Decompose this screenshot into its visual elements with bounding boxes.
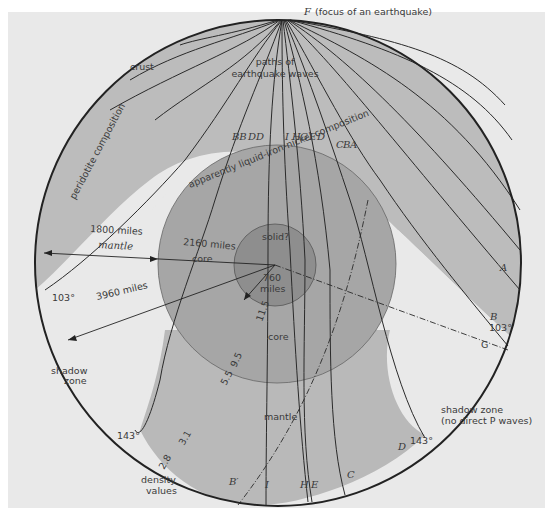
- ray-label-E: E: [308, 131, 317, 142]
- ray-label-BB: BB: [231, 131, 247, 142]
- density-label-1: density: [141, 474, 176, 485]
- shadow-right-2: (no direct P waves): [441, 415, 532, 426]
- paths-label-2: earthquake waves: [231, 68, 318, 79]
- surface-label-C: C: [347, 469, 355, 480]
- angle-143-right: 143°: [410, 435, 433, 446]
- miles-760-a: 760: [263, 272, 281, 283]
- ray-label-G: G: [300, 131, 308, 142]
- surface-label-E: E: [310, 479, 319, 490]
- surface-label-B: B: [489, 311, 497, 322]
- angle-103-left: 103°: [52, 292, 75, 303]
- mantle-bottom-label: mantle: [264, 411, 297, 422]
- surface-label-G: G: [481, 339, 488, 350]
- density-label-2: values: [146, 485, 177, 496]
- miles-760-b: miles: [260, 283, 285, 294]
- surface-label-D: D: [397, 441, 406, 452]
- shadow-left-2: zone: [64, 375, 87, 386]
- surface-label-A: A: [499, 262, 507, 273]
- solid-label: solid?: [262, 231, 289, 242]
- crust-label: crust: [130, 61, 154, 72]
- mantle-top-label: mantle: [98, 239, 134, 252]
- surface-label-H: H: [299, 479, 309, 490]
- angle-143-left: 143°: [117, 430, 140, 441]
- paths-label-1: paths of: [256, 56, 295, 67]
- focus-label: (focus of an earthquake): [315, 6, 432, 17]
- core-left-label: core: [192, 253, 213, 264]
- surface-label-B-prime: B′: [228, 476, 239, 487]
- shadow-right-1: shadow zone: [441, 404, 503, 415]
- ray-label-D: D: [316, 131, 325, 142]
- angle-103-right: 103°: [489, 322, 512, 333]
- focus-letter: F: [303, 6, 312, 17]
- earth-interior-diagram: F (focus of an earthquake) paths of eart…: [0, 0, 556, 519]
- ray-label-DD: DD: [247, 131, 264, 142]
- core-center-label: core: [268, 331, 289, 342]
- ray-label-A: A: [349, 139, 357, 150]
